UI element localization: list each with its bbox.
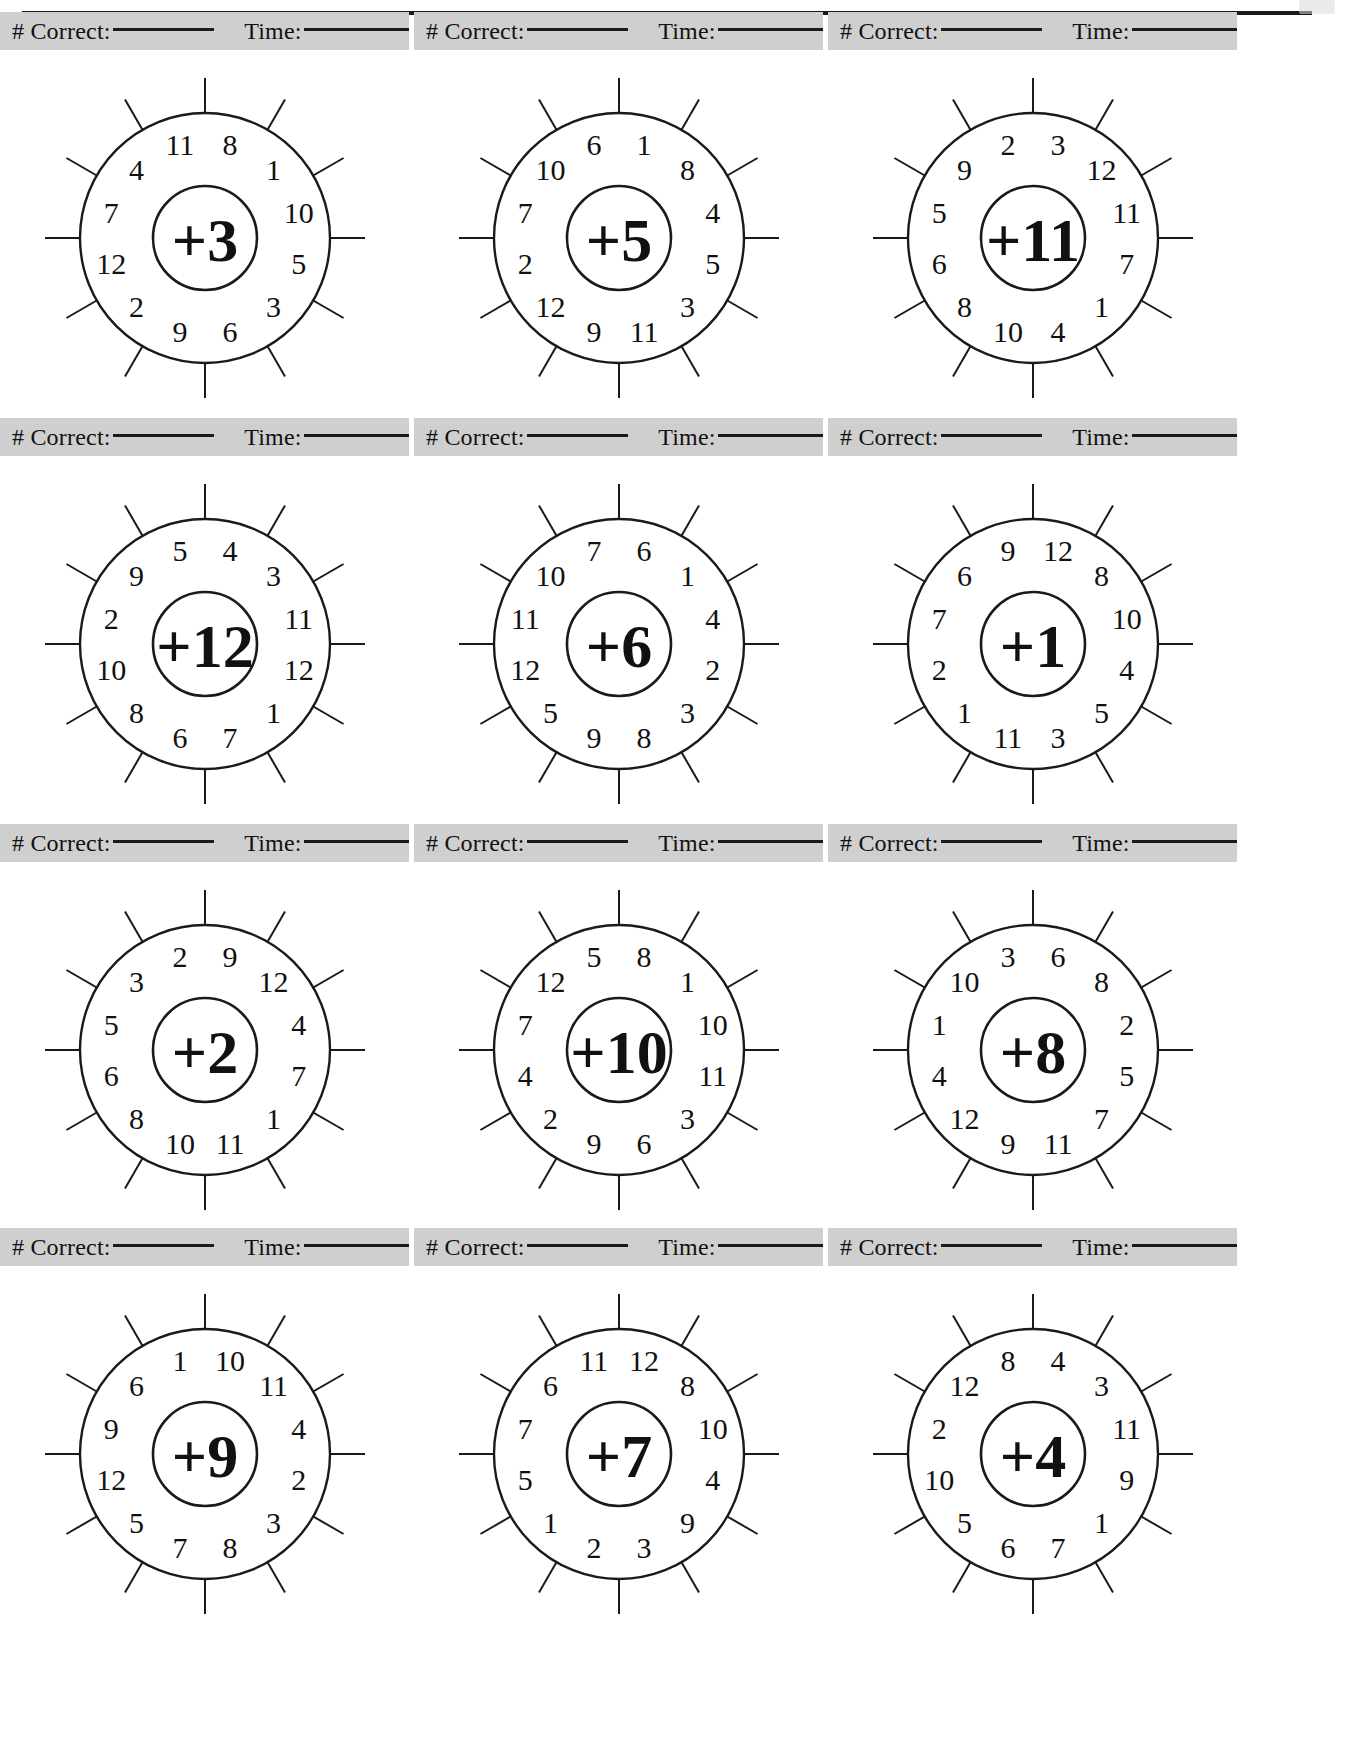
fact-wheel: +2912471111086532 <box>0 862 409 1230</box>
fact-wheel: +8682571191241103 <box>828 862 1237 1230</box>
score-strip: # Correct:Time: <box>0 12 409 50</box>
time-input[interactable] <box>718 840 823 843</box>
fact-wheel-cell: # Correct:Time:+8682571191241103 <box>828 824 1237 1232</box>
wheel-segment-number: 10 <box>164 1127 194 1160</box>
score-strip: # Correct:Time: <box>828 1228 1237 1266</box>
correct-input[interactable] <box>941 28 1043 31</box>
wheel-segment-number: 12 <box>258 965 288 998</box>
time-label: Time: <box>658 830 715 857</box>
wheel-segment-number: 4 <box>705 196 720 229</box>
correct-label: # Correct: <box>12 424 111 451</box>
fact-wheel-cell: # Correct:Time:+10811011369247125 <box>414 824 823 1232</box>
wheel-segment-number: 5 <box>103 1008 118 1041</box>
correct-input[interactable] <box>527 28 629 31</box>
correct-input[interactable] <box>941 840 1043 843</box>
wheel-segment-number: 1 <box>956 696 971 729</box>
wheel-segment-number: 12 <box>510 653 540 686</box>
wheel-segment-number: 7 <box>1094 1102 1109 1135</box>
wheel-segment-number: 2 <box>586 1531 601 1564</box>
wheel-graphic: +1128104531112769 <box>868 458 1198 824</box>
wheel-segment-number: 5 <box>542 696 557 729</box>
wheel-segment-number: 3 <box>266 290 281 323</box>
time-input[interactable] <box>304 1244 409 1247</box>
wheel-segment-number: 7 <box>291 1059 306 1092</box>
wheel-segment-number: 3 <box>1050 721 1065 754</box>
wheel-segment-number: 1 <box>1094 290 1109 323</box>
fact-wheel: +5184531191227106 <box>414 50 823 418</box>
time-label: Time: <box>658 1234 715 1261</box>
fact-wheel-cell: # Correct:Time:+1128104531112769 <box>828 418 1237 826</box>
wheel-segment-number: 8 <box>956 290 971 323</box>
wheel-segment-number: 2 <box>705 653 720 686</box>
correct-label: # Correct: <box>12 1234 111 1261</box>
wheel-segment-number: 2 <box>931 1412 946 1445</box>
wheel-segment-number: 9 <box>172 315 187 348</box>
time-label: Time: <box>244 830 301 857</box>
wheel-segment-number: 9 <box>956 153 971 186</box>
wheel-segment-number: 11 <box>165 128 194 161</box>
fact-wheel-cell: # Correct:Time:+6614238951211107 <box>414 418 823 826</box>
time-label: Time: <box>1072 424 1129 451</box>
fact-wheel: +1128104531112769 <box>828 456 1237 824</box>
wheel-segment-number: 4 <box>517 1059 532 1092</box>
time-input[interactable] <box>1132 1244 1237 1247</box>
wheel-segment-number: 1 <box>266 153 281 186</box>
wheel-segment-number: 10 <box>96 653 126 686</box>
wheel-segment-number: 7 <box>517 196 532 229</box>
correct-input[interactable] <box>113 28 215 31</box>
wheel-segment-number: 6 <box>636 534 651 567</box>
wheel-segment-number: 12 <box>629 1344 659 1377</box>
correct-input[interactable] <box>941 434 1043 437</box>
wheel-segment-number: 2 <box>291 1463 306 1496</box>
wheel-hub-operator: +1 <box>999 612 1065 680</box>
fact-wheel-cell: # Correct:Time:+2912471111086532 <box>0 824 409 1232</box>
correct-input[interactable] <box>527 434 629 437</box>
time-label: Time: <box>244 1234 301 1261</box>
correct-input[interactable] <box>527 840 629 843</box>
wheel-segment-number: 7 <box>931 602 946 635</box>
wheel-segment-number: 7 <box>172 1531 187 1564</box>
time-input[interactable] <box>304 840 409 843</box>
wheel-segment-number: 12 <box>535 290 565 323</box>
wheel-segment-number: 12 <box>535 965 565 998</box>
score-strip: # Correct:Time: <box>414 1228 823 1266</box>
time-input[interactable] <box>1132 434 1237 437</box>
wheel-graphic: +4431191765102128 <box>868 1268 1198 1634</box>
wheel-segment-number: 8 <box>680 1369 695 1402</box>
correct-input[interactable] <box>113 1244 215 1247</box>
score-strip: # Correct:Time: <box>0 418 409 456</box>
wheel-graphic: +10811011369247125 <box>454 864 784 1230</box>
wheel-segment-number: 4 <box>1050 315 1065 348</box>
time-input[interactable] <box>1132 840 1237 843</box>
wheel-graphic: +2912471111086532 <box>40 864 370 1230</box>
correct-input[interactable] <box>113 434 215 437</box>
score-strip: # Correct:Time: <box>828 824 1237 862</box>
wheel-segment-number: 8 <box>1000 1344 1015 1377</box>
time-input[interactable] <box>304 28 409 31</box>
wheel-segment-number: 8 <box>680 153 695 186</box>
time-input[interactable] <box>1132 28 1237 31</box>
correct-label: # Correct: <box>840 830 939 857</box>
wheel-segment-number: 7 <box>103 196 118 229</box>
wheel-segment-number: 9 <box>1119 1463 1134 1496</box>
time-input[interactable] <box>718 28 823 31</box>
correct-input[interactable] <box>527 1244 629 1247</box>
wheel-hub-operator: +2 <box>171 1018 237 1086</box>
time-input[interactable] <box>718 1244 823 1247</box>
wheel-graphic: +11312117141086592 <box>868 52 1198 418</box>
wheel-hub-operator: +9 <box>171 1422 237 1490</box>
wheel-graphic: +5184531191227106 <box>454 52 784 418</box>
wheel-segment-number: 11 <box>1112 1412 1141 1445</box>
wheel-segment-number: 7 <box>222 721 237 754</box>
correct-input[interactable] <box>113 840 215 843</box>
score-strip: # Correct:Time: <box>0 1228 409 1266</box>
wheel-segment-number: 3 <box>1000 940 1015 973</box>
wheel-segment-number: 6 <box>222 315 237 348</box>
wheel-segment-number: 12 <box>1086 153 1116 186</box>
time-input[interactable] <box>304 434 409 437</box>
wheel-segment-number: 9 <box>1000 1127 1015 1160</box>
time-input[interactable] <box>718 434 823 437</box>
wheel-segment-number: 12 <box>283 653 313 686</box>
wheel-segment-number: 8 <box>128 1102 143 1135</box>
correct-input[interactable] <box>941 1244 1043 1247</box>
